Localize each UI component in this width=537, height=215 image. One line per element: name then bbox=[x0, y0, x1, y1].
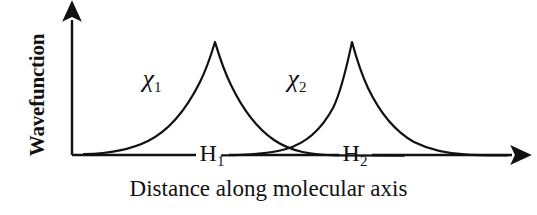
atom-label-h2-subscript: 2 bbox=[360, 153, 367, 169]
wavefunction-figure: Wavefunction Distance along molecular ax… bbox=[0, 0, 537, 215]
curve-label-chi1-symbol: χ bbox=[143, 64, 154, 93]
curve-label-chi2-symbol: χ bbox=[288, 64, 299, 93]
chi2-curve bbox=[222, 42, 508, 155]
atom-label-h1-subscript: 1 bbox=[217, 153, 224, 169]
curve-label-chi2: χ2 bbox=[288, 64, 307, 96]
curve-label-chi1-subscript: 1 bbox=[154, 79, 162, 95]
atom-label-h2: H2 bbox=[343, 140, 368, 170]
atom-label-h1: H1 bbox=[200, 140, 225, 170]
curve-label-chi2-subscript: 2 bbox=[299, 79, 307, 95]
y-axis-label: Wavefunction bbox=[24, 20, 50, 170]
atom-label-h2-element: H bbox=[343, 140, 360, 166]
x-axis-label: Distance along molecular axis bbox=[0, 176, 537, 202]
atom-label-h1-element: H bbox=[200, 140, 217, 166]
curve-label-chi1: χ1 bbox=[143, 64, 162, 96]
